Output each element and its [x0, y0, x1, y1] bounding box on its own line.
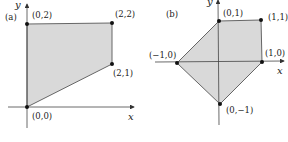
y-axis-label-b: y: [206, 0, 213, 7]
vertex-label-b-1-1: (1,1): [268, 12, 288, 22]
vertex-b-0-1: [217, 19, 221, 23]
x-axis-b: [155, 61, 284, 62]
panel-b: (b) y x (0,1) (1,1) (1,0) (0,−1) (−1,0): [149, 0, 288, 125]
vertex-label-a-0-2: (0,2): [32, 10, 52, 20]
vertex-label-a-2-2: (2,2): [115, 9, 135, 19]
y-axis-label-a: y: [14, 0, 21, 10]
vertex-b-0-neg1: [218, 102, 222, 106]
panel-b-label: (b): [166, 9, 178, 19]
vertex-a-0-2: [25, 22, 29, 26]
x-axis-label-b: x: [277, 65, 283, 76]
vertex-label-b-1-0: (1,0): [265, 48, 285, 58]
shaded-region-a: [27, 23, 112, 107]
vertex-label-a-2-1: (2,1): [113, 68, 133, 78]
vertex-a-2-1: [110, 62, 114, 66]
vertex-b-1-1: [259, 18, 263, 22]
vertex-label-b-0-neg1: (0,−1): [226, 105, 253, 115]
vertex-label-a-0-0: (0,0): [32, 111, 52, 121]
y-axis-b: [218, 0, 219, 125]
vertex-b-neg1-0: [175, 61, 179, 65]
vertex-a-0-0: [25, 105, 29, 109]
vertex-a-2-2: [110, 21, 114, 25]
vertex-label-b-0-1: (0,1): [223, 8, 243, 18]
feasible-region-figure: (a) y x (0,0) (0,2) (2,2) (2,1) (b) y x …: [0, 0, 288, 142]
vertex-b-1-0: [260, 60, 264, 64]
x-axis-label-a: x: [128, 111, 134, 122]
vertex-label-b-neg1-0: (−1,0): [149, 50, 176, 60]
panel-a-label: (a): [5, 12, 17, 22]
panel-a: (a) y x (0,0) (0,2) (2,2) (2,1): [5, 0, 135, 128]
